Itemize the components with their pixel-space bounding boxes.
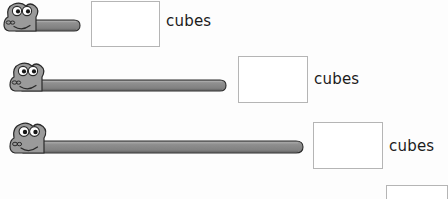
worm-body-2 xyxy=(22,80,226,91)
answer-box-1[interactable] xyxy=(91,1,160,47)
measuring-worm-3 xyxy=(6,120,322,170)
answer-box-3[interactable] xyxy=(313,122,383,169)
measuring-worm-1 xyxy=(0,0,92,46)
unit-label-2: cubes xyxy=(314,72,359,87)
measurement-row-3: cubes xyxy=(0,118,448,172)
measurement-row-2: cubes xyxy=(0,58,448,108)
answer-box-2[interactable] xyxy=(238,56,308,103)
worm-body-3 xyxy=(23,141,303,153)
measuring-worm-2 xyxy=(6,60,246,106)
measurement-worksheet: cubes xyxy=(0,0,448,199)
unit-label-1: cubes xyxy=(166,14,211,29)
measurement-row-1: cubes xyxy=(0,0,448,52)
unit-label-3: cubes xyxy=(389,139,434,154)
answer-box-4-partial[interactable] xyxy=(386,185,448,199)
worm-head-1 xyxy=(4,3,38,31)
worm-head-2 xyxy=(10,63,44,91)
worm-head-3 xyxy=(10,123,46,153)
